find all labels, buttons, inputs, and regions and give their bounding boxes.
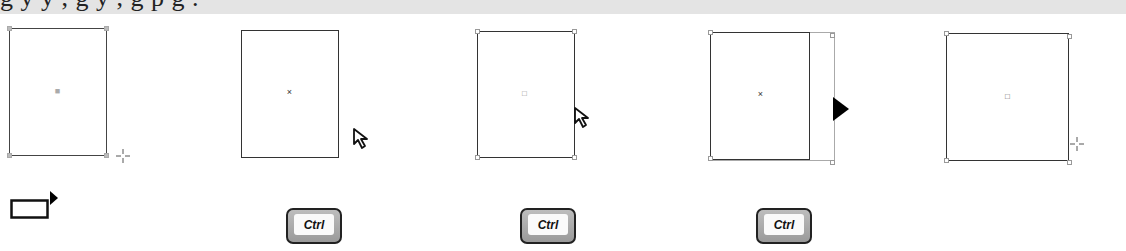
selection-handle: [572, 155, 577, 160]
selection-handle: [104, 26, 109, 31]
selection-handle: [572, 29, 577, 34]
selection-handle: [708, 30, 713, 35]
crosshair-icon: [115, 148, 131, 164]
arrow-pointer-icon: [352, 127, 370, 151]
ctrl-key: Ctrl: [756, 208, 812, 244]
ctrl-key-label: Ctrl: [528, 214, 568, 235]
ctrl-key: Ctrl: [520, 208, 576, 244]
selection-handle: [944, 158, 949, 163]
selection-handle: [7, 26, 12, 31]
ctrl-key-label: Ctrl: [764, 214, 804, 235]
arrow-pointer-icon: [573, 106, 591, 130]
selection-handle: [7, 153, 12, 158]
caption-strip: g y y , g y , g p g .: [0, 0, 1126, 14]
selection-handle: [1067, 34, 1072, 39]
selection-handle: [944, 31, 949, 36]
center-marker: ×: [285, 88, 294, 97]
center-marker: ■: [53, 87, 62, 96]
crosshair-icon: [1069, 136, 1085, 152]
selection-handle: [1067, 160, 1072, 165]
selection-handle: [830, 160, 835, 165]
rectangle-tool-icon: [10, 191, 62, 221]
selection-handle: [830, 33, 835, 38]
center-marker: □: [520, 89, 529, 98]
selection-handle: [475, 29, 480, 34]
ctrl-key: Ctrl: [286, 208, 342, 244]
filled-arrow-icon: [832, 96, 852, 122]
center-marker: □: [1003, 92, 1012, 101]
selection-handle: [104, 153, 109, 158]
selection-handle: [708, 156, 713, 161]
center-marker: ×: [756, 90, 765, 99]
caption-text: g y y , g y , g p g .: [0, 0, 199, 13]
ctrl-key-label: Ctrl: [294, 214, 334, 235]
selection-handle: [475, 155, 480, 160]
